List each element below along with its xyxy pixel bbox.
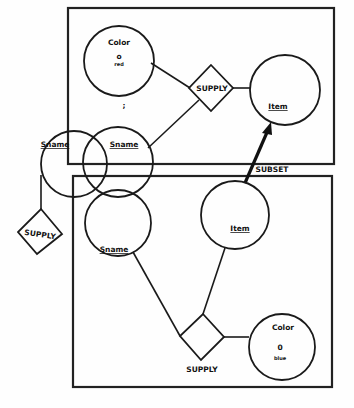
sname-label: Sname xyxy=(41,140,70,149)
edge-color-supply-top xyxy=(151,63,190,88)
color-label: Color xyxy=(272,323,294,332)
er-diagram: Color o red ; SUPPLY Item Sname Sname SU… xyxy=(0,0,354,408)
item-label: Item xyxy=(230,224,249,233)
supply-label: SUPPLY xyxy=(186,365,218,374)
color-sub: blue xyxy=(274,355,287,361)
item-label: Item xyxy=(268,102,287,111)
edge-sname-supply-top xyxy=(148,100,199,148)
sname-entity-bottom[interactable]: Sname xyxy=(85,190,151,256)
color-value: o xyxy=(116,52,121,61)
color-value: 0 xyxy=(277,343,282,352)
subset-label: SUBSET xyxy=(256,165,290,174)
color-entity-bottom[interactable]: Color 0 blue xyxy=(249,314,315,380)
color-sub: red xyxy=(114,61,124,67)
color-entity-top[interactable]: Color o red xyxy=(84,26,154,96)
supply-relation-outside[interactable]: SUPPLY xyxy=(18,209,62,254)
edge-sname-supply-bottom xyxy=(133,252,180,336)
supply-label: SUPPLY xyxy=(196,84,228,93)
supply-relation-bottom[interactable]: SUPPLY xyxy=(180,314,224,374)
mark-symbol: ; xyxy=(123,101,126,110)
color-label: Color xyxy=(108,38,130,47)
item-entity-top[interactable]: Item xyxy=(250,55,320,125)
sname-label: Sname xyxy=(100,245,129,254)
sname-label: Sname xyxy=(110,140,139,149)
edge-item-supply-bottom xyxy=(203,248,225,314)
supply-label: SUPPLY xyxy=(24,228,57,241)
item-entity-bottom[interactable]: Item xyxy=(201,181,269,249)
arrowhead-icon xyxy=(262,122,272,135)
